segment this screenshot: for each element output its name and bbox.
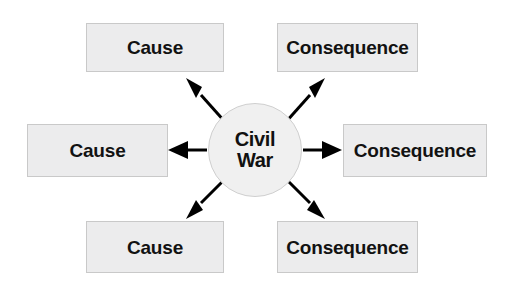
node-cause-bottom[interactable]: Cause — [86, 221, 224, 273]
arrow-up-right — [285, 78, 325, 123]
node-consequence-top[interactable]: Consequence — [277, 23, 418, 72]
arrow-right — [303, 141, 342, 159]
arrow-left — [168, 141, 207, 159]
node-cause-middle-label: Cause — [69, 141, 125, 160]
diagram-canvas: Cause Consequence Cause Consequence Caus… — [0, 0, 508, 294]
arrow-down-right — [285, 178, 325, 219]
center-node-label-line1: Civil — [235, 129, 276, 150]
arrow-down-left — [186, 178, 226, 219]
node-consequence-middle-label: Consequence — [354, 141, 476, 160]
arrow-up-left — [186, 78, 226, 123]
node-cause-bottom-label: Cause — [127, 238, 183, 257]
node-consequence-bottom-label: Consequence — [286, 238, 408, 257]
node-consequence-top-label: Consequence — [286, 38, 408, 57]
node-cause-middle[interactable]: Cause — [27, 124, 168, 177]
node-consequence-middle[interactable]: Consequence — [343, 124, 487, 177]
center-node-label-line2: War — [237, 150, 273, 171]
node-cause-top[interactable]: Cause — [86, 23, 224, 72]
node-consequence-bottom[interactable]: Consequence — [277, 221, 418, 273]
center-node-civil-war[interactable]: Civil War — [208, 103, 302, 197]
node-cause-top-label: Cause — [127, 38, 183, 57]
